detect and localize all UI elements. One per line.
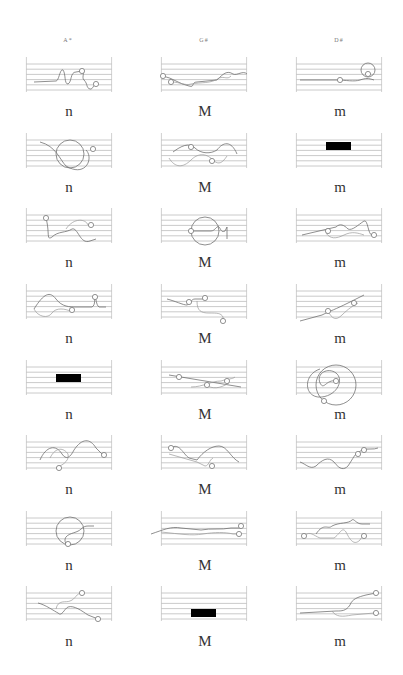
chord-quality-label: m (334, 482, 346, 497)
chord-quality-label: m (334, 180, 346, 195)
staff-diagram (296, 585, 382, 621)
chord-quality-label: M (198, 482, 211, 497)
chord-quality-label: M (198, 407, 211, 422)
chord-quality-label: n (65, 558, 73, 573)
staff-diagram (26, 283, 112, 319)
chord-quality-label: m (334, 558, 346, 573)
column-header: G# (199, 37, 208, 43)
staff-diagram (161, 283, 247, 319)
staff-diagram (26, 132, 112, 168)
chord-quality-label: n (65, 331, 73, 346)
chord-quality-label: M (198, 104, 211, 119)
staff-diagram (161, 585, 247, 621)
chord-grid: A*G#D#nMmnMmnMmnMmnMmnMmnMmnMm (0, 0, 403, 675)
chord-quality-label: n (65, 104, 73, 119)
column-header: A* (63, 37, 72, 43)
staff-diagram (296, 56, 382, 92)
staff-diagram (296, 359, 382, 395)
chord-quality-label: M (198, 180, 211, 195)
chord-quality-label: M (198, 331, 211, 346)
chord-quality-label: n (65, 634, 73, 649)
column-header: D# (334, 37, 343, 43)
chord-quality-label: n (65, 255, 73, 270)
staff-diagram (296, 207, 382, 243)
staff-diagram (161, 207, 247, 243)
staff-diagram (296, 132, 382, 168)
staff-diagram (161, 359, 247, 395)
staff-diagram (26, 434, 112, 470)
chord-quality-label: M (198, 255, 211, 270)
chord-quality-label: m (334, 407, 346, 422)
filled-block-icon (56, 374, 81, 382)
staff-diagram (161, 56, 247, 92)
filled-block-icon (191, 609, 216, 617)
chord-quality-label: m (334, 331, 346, 346)
staff-diagram (161, 510, 247, 546)
chord-quality-label: M (198, 634, 211, 649)
staff-diagram (296, 434, 382, 470)
staff-diagram (161, 132, 247, 168)
staff-diagram (26, 585, 112, 621)
staff-diagram (161, 434, 247, 470)
staff-diagram (26, 207, 112, 243)
staff-diagram (296, 283, 382, 319)
filled-block-icon (326, 142, 351, 150)
chord-quality-label: n (65, 482, 73, 497)
chord-quality-label: M (198, 558, 211, 573)
chord-quality-label: n (65, 180, 73, 195)
staff-diagram (26, 56, 112, 92)
staff-diagram (26, 359, 112, 395)
staff-diagram (296, 510, 382, 546)
chord-quality-label: m (334, 634, 346, 649)
staff-diagram (26, 510, 112, 546)
chord-quality-label: m (334, 104, 346, 119)
chord-quality-label: n (65, 407, 73, 422)
chord-quality-label: m (334, 255, 346, 270)
